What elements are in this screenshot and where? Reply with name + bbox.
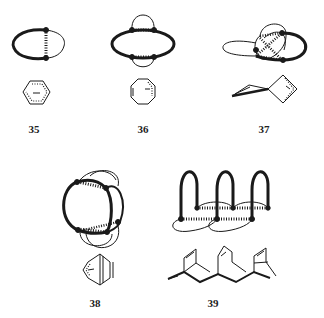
structure-37 [232,75,297,103]
structure-36 [131,79,155,104]
topology-39 [173,172,270,232]
topology-35 [13,28,64,61]
topology-38 [64,171,123,248]
compound-label-37: 37 [259,123,270,135]
diagram-canvas [0,0,324,318]
compound-label-36: 36 [138,123,149,135]
structure-39 [168,246,276,282]
compound-label-39: 39 [208,297,219,309]
compound-label-38: 38 [90,297,101,309]
structure-38 [83,254,113,285]
topology-37 [223,24,306,63]
topology-36 [112,15,174,67]
compound-label-35: 35 [29,123,40,135]
structure-35 [23,81,50,104]
